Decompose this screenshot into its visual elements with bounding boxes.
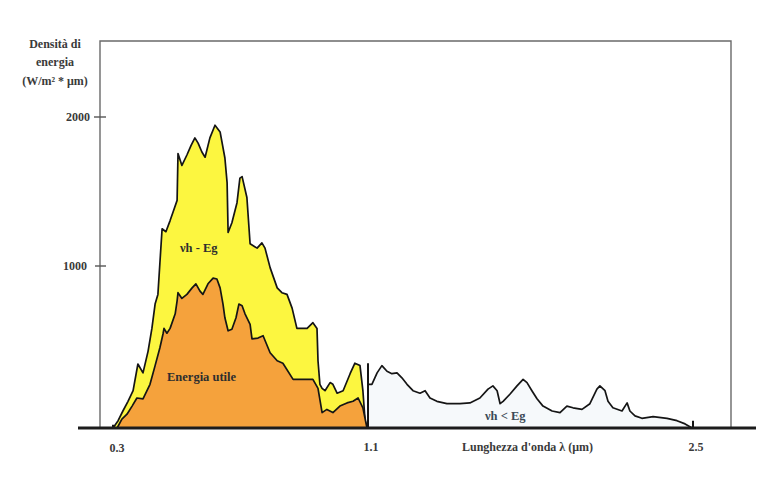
chart-figure: Densità di energia (W/m² * μm) 2000 1000…	[0, 0, 775, 479]
x-axis-title: Lunghezza d'onda λ (μm)	[462, 440, 593, 454]
y-tick-label-2000: 2000	[66, 110, 90, 124]
y-axis-title-line-1: Densità di	[29, 37, 81, 51]
label-nuh-minus-eg: νh - Eg	[179, 241, 218, 255]
y-axis-title-line-3: (W/m² * μm)	[22, 74, 88, 88]
area-nuh-below-eg	[368, 366, 692, 428]
x-tick-label-1-1: 1.1	[364, 440, 379, 454]
label-nuh-below-eg: νh < Eg	[484, 409, 526, 423]
label-energia-utile: Energia utile	[167, 370, 237, 384]
x-tick-label-2-5: 2.5	[689, 440, 704, 454]
y-tick-label-1000: 1000	[63, 259, 87, 273]
y-axis-title-line-2: energia	[36, 55, 74, 69]
x-tick-label-0-3: 0.3	[110, 441, 125, 455]
chart-canvas: Densità di energia (W/m² * μm) 2000 1000…	[0, 0, 775, 479]
